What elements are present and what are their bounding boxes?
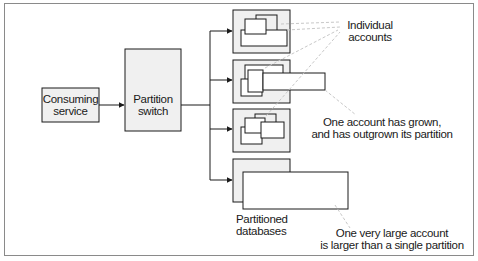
partition-3	[233, 109, 290, 152]
partition-1	[233, 10, 290, 53]
partition-switch-label: Partition switch	[125, 93, 181, 117]
account-box	[261, 122, 284, 138]
account-box	[248, 70, 263, 92]
overflowing-account-box	[263, 73, 325, 90]
partition-4	[233, 159, 348, 209]
partitioned-databases-annotation: Partitioned databases	[236, 213, 288, 237]
partition-switch-box	[125, 49, 181, 131]
partition-2	[233, 60, 325, 103]
very-large-account-box	[243, 172, 348, 209]
consuming-service-label: Consuming service	[42, 93, 99, 117]
outgrown-annotation: One account has grown, and has outgrown …	[302, 116, 462, 140]
individual-accounts-annotation: Individual accounts	[340, 19, 400, 43]
very-large-annotation: One very large account is larger than a …	[312, 227, 472, 251]
account-box	[245, 19, 266, 34]
